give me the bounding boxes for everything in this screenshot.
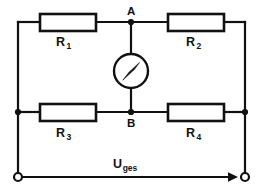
terminal-right[interactable] bbox=[241, 173, 249, 181]
junction-left-dot bbox=[15, 109, 21, 115]
resistor-r2-body bbox=[168, 14, 224, 31]
junction-right-dot bbox=[242, 109, 248, 115]
resistor-r3-label: R3 bbox=[56, 127, 70, 140]
resistor-r1-label-text: R bbox=[56, 35, 65, 49]
resistor-r1-body bbox=[40, 14, 96, 31]
voltage-label-sub: ges bbox=[123, 163, 138, 173]
voltage-label: Uges bbox=[113, 158, 137, 171]
resistor-r2-label-text: R bbox=[186, 35, 195, 49]
resistor-r4-label-sub: 4 bbox=[196, 132, 201, 142]
voltage-label-text: U bbox=[113, 157, 122, 171]
resistor-r3-label-text: R bbox=[56, 126, 65, 140]
resistor-r4-body bbox=[168, 104, 224, 121]
resistor-r3-body bbox=[40, 104, 96, 121]
terminal-left[interactable] bbox=[14, 173, 22, 181]
voltage-arrow-icon bbox=[228, 172, 238, 182]
resistor-r3-label-sub: 3 bbox=[66, 132, 71, 142]
node-b-dot bbox=[128, 109, 134, 115]
node-a-label: A bbox=[127, 6, 135, 18]
resistor-r1-label: R1 bbox=[56, 36, 70, 49]
circuit-diagram: R1 R2 R3 R4 A B Uges bbox=[0, 0, 262, 194]
resistor-r4-label-text: R bbox=[186, 126, 195, 140]
node-b-label: B bbox=[127, 118, 135, 130]
resistor-r2-label-sub: 2 bbox=[196, 41, 201, 51]
resistor-r1-label-sub: 1 bbox=[66, 41, 71, 51]
resistor-r2-label: R2 bbox=[186, 36, 200, 49]
resistor-r4-label: R4 bbox=[186, 127, 200, 140]
node-a-dot bbox=[128, 19, 134, 25]
